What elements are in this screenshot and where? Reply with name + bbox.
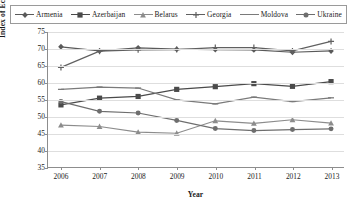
legend-item-georgia[interactable]: Georgia	[186, 10, 231, 19]
legend-marker-square-icon	[76, 11, 85, 20]
data-point-marker-square	[290, 84, 295, 89]
x-axis-tick-mark	[100, 167, 101, 170]
y-axis-tick-label: 55	[38, 95, 45, 104]
data-point-marker-circle	[136, 111, 141, 116]
y-axis-tick-mark	[45, 66, 48, 67]
x-axis-tick-label: 2011	[247, 172, 262, 181]
y-axis-tick-label: 65	[38, 61, 45, 70]
x-axis-tick-mark	[255, 167, 256, 170]
legend-item-ukraine[interactable]: Ukraine	[296, 10, 342, 19]
legend-marker-plus-icon	[191, 11, 200, 20]
gridline	[48, 49, 344, 50]
data-point-marker-square	[78, 12, 83, 17]
x-axis-tick-label: 2009	[170, 172, 185, 181]
plot-area: 3540455055606570752006200720082009201020…	[47, 32, 344, 168]
data-point-marker-diamond	[22, 12, 28, 18]
x-axis-tick-label: 2013	[325, 172, 340, 181]
series-belarus	[58, 117, 334, 136]
y-axis-tick-mark	[45, 134, 48, 135]
data-point-marker-triangle	[140, 12, 146, 17]
x-axis-title: Year	[47, 190, 344, 199]
y-axis-tick-label: 70	[38, 44, 45, 53]
data-point-marker-square	[136, 94, 141, 99]
gridline	[48, 117, 344, 118]
x-axis-tick-label: 2006	[54, 172, 69, 181]
y-axis-title: Index of Economic Freedom	[0, 0, 7, 46]
data-point-marker-plus	[328, 38, 334, 44]
legend-label: Azerbaijan	[91, 10, 125, 19]
x-axis-tick-mark	[61, 167, 62, 170]
legend-marker-diamond-icon	[20, 11, 29, 20]
y-axis-tick-label: 50	[38, 112, 45, 121]
data-point-marker-circle	[303, 13, 308, 18]
y-axis-tick-label: 35	[38, 163, 45, 172]
x-axis-tick-label: 2010	[208, 172, 223, 181]
legend-swatch-line	[71, 14, 90, 15]
y-axis-tick-label: 45	[38, 129, 45, 138]
y-axis-tick-label: 40	[38, 146, 45, 155]
x-axis-tick-label: 2008	[131, 172, 146, 181]
legend-marker-circle-icon	[301, 11, 310, 20]
legend-swatch-line	[186, 14, 205, 15]
legend-swatch-line	[240, 14, 259, 15]
legend-label: Belarus	[154, 10, 178, 19]
legend-label: Georgia	[206, 10, 231, 19]
legend-item-belarus[interactable]: Belarus	[134, 10, 178, 19]
x-axis-tick-mark	[332, 167, 333, 170]
y-axis-tick-label: 75	[38, 27, 45, 36]
series-moldova	[58, 87, 334, 104]
y-axis-tick-mark	[45, 49, 48, 50]
legend-marker-triangle-icon	[139, 11, 148, 20]
legend-swatch-line	[15, 14, 34, 15]
data-point-marker-circle	[329, 126, 334, 131]
data-point-marker-circle	[251, 128, 256, 133]
gridline	[48, 151, 344, 152]
gridline	[48, 83, 344, 84]
gridline	[48, 134, 344, 135]
data-point-marker-circle	[97, 109, 102, 114]
y-axis-tick-mark	[45, 100, 48, 101]
legend-label: Armenia	[35, 10, 63, 19]
data-point-marker-circle	[290, 127, 295, 132]
legend-label: Moldova	[260, 10, 288, 19]
legend-item-azerbaijan[interactable]: Azerbaijan	[71, 10, 125, 19]
y-axis-tick-label: 60	[38, 78, 45, 87]
legend-swatch-line	[296, 14, 315, 15]
x-axis-tick-mark	[177, 167, 178, 170]
gridline	[48, 32, 344, 33]
y-axis-tick-mark	[45, 168, 48, 169]
chart-legend: ArmeniaAzerbaijanBelarusGeorgiaMoldovaUk…	[10, 5, 347, 24]
y-axis-tick-mark	[45, 83, 48, 84]
legend-swatch-line	[134, 14, 153, 15]
y-axis-tick-mark	[45, 117, 48, 118]
data-point-marker-plus	[193, 12, 199, 18]
gridline	[48, 66, 344, 67]
data-point-marker-square	[213, 84, 218, 89]
legend-item-armenia[interactable]: Armenia	[15, 10, 63, 19]
x-axis-tick-label: 2012	[286, 172, 301, 181]
x-axis-tick-mark	[293, 167, 294, 170]
x-axis-tick-mark	[138, 167, 139, 170]
x-axis-tick-label: 2007	[92, 172, 107, 181]
gridline	[48, 100, 344, 101]
data-point-marker-square	[174, 87, 179, 92]
legend-item-moldova[interactable]: Moldova	[240, 10, 288, 19]
x-axis-tick-mark	[216, 167, 217, 170]
y-axis-tick-mark	[45, 151, 48, 152]
series-line	[61, 41, 331, 67]
y-axis-tick-mark	[45, 32, 48, 33]
legend-label: Ukraine	[316, 10, 342, 19]
data-point-marker-circle	[213, 126, 218, 131]
economic-freedom-line-chart: ArmeniaAzerbaijanBelarusGeorgiaMoldovaUk…	[0, 0, 357, 211]
data-point-marker-circle	[174, 118, 179, 123]
